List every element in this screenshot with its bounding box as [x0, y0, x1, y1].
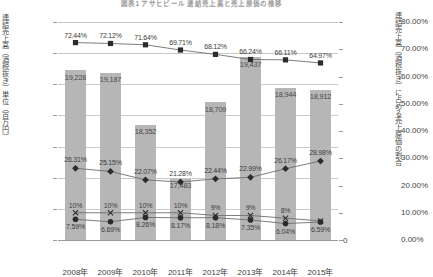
circle-marker — [318, 219, 324, 225]
y-axis-right-tick-label: 10.00% — [401, 208, 433, 217]
x-axis-label: 2011年 — [163, 266, 198, 277]
point-value-label: 6.69% — [93, 226, 128, 233]
square-marker — [108, 41, 113, 46]
y-tick-right — [339, 213, 343, 214]
point-value-label: 71.64% — [128, 34, 163, 41]
diamond-marker — [212, 175, 219, 182]
point-value-label: 26.17% — [268, 157, 303, 164]
diamond-marker — [107, 168, 114, 175]
chart-title: 図表1 アサヒビール 連結売上高と売上原価の推移 — [0, 0, 403, 8]
y-axis-right-tick-label: 30.00% — [401, 153, 433, 162]
point-value-label: 8% — [268, 207, 303, 214]
square-marker — [283, 57, 288, 62]
y-tick-left — [53, 209, 57, 210]
diamond-marker — [72, 165, 79, 172]
square-marker — [248, 57, 253, 62]
y-axis-right-tick-label: 70.00% — [401, 44, 433, 53]
circle-marker — [213, 215, 219, 221]
diamond-marker — [177, 179, 184, 186]
circle-marker — [143, 215, 149, 221]
x-axis-label: 2012年 — [198, 266, 233, 277]
circle-marker — [178, 215, 184, 221]
y-tick-right — [339, 104, 343, 105]
y-tick-left — [53, 240, 57, 241]
point-value-label: 10% — [163, 202, 198, 209]
point-value-label: 64.97% — [303, 52, 338, 59]
point-value-label: 72.12% — [93, 32, 128, 39]
diamond-marker — [282, 165, 289, 172]
point-value-label: 26.31% — [58, 156, 93, 163]
point-value-label: 6.04% — [268, 228, 303, 235]
point-value-label: 8.26% — [128, 221, 163, 228]
diamond-marker — [142, 176, 149, 183]
right-axis-zero-label: 0 — [343, 236, 347, 245]
y-tick-right — [339, 186, 343, 187]
square-marker — [143, 42, 148, 47]
point-value-label: 7.35% — [233, 224, 268, 231]
point-value-label: 9% — [198, 204, 233, 211]
y-tick-left — [53, 178, 57, 179]
point-value-label: 9% — [233, 204, 268, 211]
x-axis-label: 2008年 — [58, 266, 93, 277]
point-value-label: 22.07% — [128, 168, 163, 175]
y-tick-left — [53, 53, 57, 54]
square-marker — [213, 52, 218, 57]
point-value-label: 25.15% — [93, 159, 128, 166]
y-axis-right-tick-label: 80.00% — [401, 17, 433, 26]
point-value-label: 7.59% — [58, 223, 93, 230]
diamond-marker — [317, 158, 324, 165]
circle-marker — [108, 219, 114, 225]
point-value-label: 68.12% — [198, 43, 233, 50]
point-value-label: 6.59% — [303, 226, 338, 233]
y-tick-left — [53, 84, 57, 85]
point-value-label: 21.28% — [163, 170, 198, 177]
square-marker — [73, 40, 78, 45]
point-value-label: 66.24% — [233, 48, 268, 55]
circle-marker — [283, 221, 289, 227]
point-value-label: 10% — [128, 202, 163, 209]
circle-marker — [248, 217, 254, 223]
square-marker — [178, 47, 183, 52]
y-axis-right-tick-label: 20.00% — [401, 181, 433, 190]
y-axis-right-tick-label: 60.00% — [401, 72, 433, 81]
point-value-label: 69.71% — [163, 39, 198, 46]
plot-area: 20,00019,50019,00018,50018,00017,50017,0… — [58, 22, 338, 240]
y-tick-left — [53, 115, 57, 116]
point-value-label: 72.44% — [58, 32, 93, 39]
y-tick-right — [339, 240, 343, 241]
y-axis-right-tick-label: 50.00% — [401, 99, 433, 108]
y-tick-right — [339, 158, 343, 159]
point-value-label: 22.99% — [233, 165, 268, 172]
x-axis-label: 2009年 — [93, 266, 128, 277]
y-tick-right — [339, 131, 343, 132]
y-tick-left — [53, 22, 57, 23]
point-value-label: 22.44% — [198, 167, 233, 174]
y-tick-right — [339, 49, 343, 50]
x-axis-label: 2010年 — [128, 266, 163, 277]
x-axis-label: 2014年 — [268, 266, 303, 277]
gridline — [58, 240, 338, 241]
y-axis-right-tick-label: 40.00% — [401, 126, 433, 135]
x-axis-label: 2015年 — [303, 266, 338, 277]
y-axis-left-title: 連結売上高（酒税抜き）単位（百万円） — [1, 14, 9, 250]
diamond-marker — [247, 174, 254, 181]
point-value-label: 66.11% — [268, 49, 303, 56]
point-value-label: 10% — [58, 202, 93, 209]
y-tick-left — [53, 147, 57, 148]
x-axis-label: 2013年 — [233, 266, 268, 277]
y-tick-right — [339, 77, 343, 78]
point-value-label: 8.18% — [198, 222, 233, 229]
y-tick-right — [339, 22, 343, 23]
y-axis-right-tick-label: 0.00% — [401, 235, 433, 244]
point-value-label: 8.17% — [163, 222, 198, 229]
circle-marker — [73, 217, 79, 223]
point-value-label: 28.98% — [303, 149, 338, 156]
point-value-label: 10% — [93, 202, 128, 209]
square-marker — [318, 60, 323, 65]
